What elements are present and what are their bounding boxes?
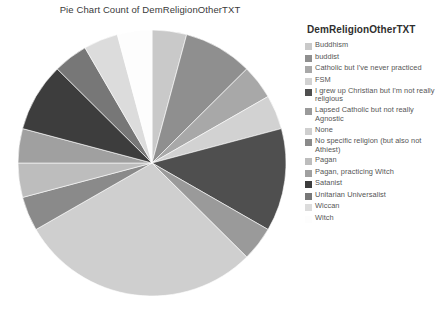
legend-item-label: FSM	[315, 76, 331, 84]
legend-item-label: buddist	[315, 53, 339, 61]
legend-color-swatch	[305, 139, 312, 146]
legend-color-swatch	[305, 78, 312, 85]
legend-color-swatch	[305, 89, 312, 96]
legend-color-swatch	[305, 216, 312, 223]
legend-item-label: Lapsed Catholic but not really Agnostic	[315, 106, 438, 123]
legend-color-swatch	[305, 128, 312, 135]
legend-item-label: Pagan, practicing Witch	[315, 168, 394, 176]
legend-item-label: Wiccan	[315, 202, 340, 210]
legend-item[interactable]: Wiccan	[305, 202, 438, 211]
legend-item[interactable]: Pagan, practicing Witch	[305, 168, 438, 177]
legend-item[interactable]: FSM	[305, 76, 438, 85]
legend-color-swatch	[305, 158, 312, 165]
legend-item[interactable]: Unitarian Universalist	[305, 191, 438, 200]
legend-item-label: Satanist	[315, 179, 342, 187]
legend-color-swatch	[305, 55, 312, 62]
legend-color-swatch	[305, 66, 312, 73]
legend-item-label: No specific religion (but also not Athie…	[315, 137, 438, 154]
legend-item-label: Witch	[315, 214, 334, 222]
legend-item-list: BuddhismbuddistCatholic but I've never p…	[305, 41, 438, 223]
pie-slice-group	[18, 30, 286, 296]
legend-item[interactable]: Lapsed Catholic but not really Agnostic	[305, 106, 438, 123]
legend-item[interactable]: I grew up Christian but I'm not really r…	[305, 87, 438, 104]
legend-color-swatch	[305, 108, 312, 115]
legend-item-label: Catholic but I've never practiced	[315, 64, 422, 72]
legend-item[interactable]: No specific religion (but also not Athie…	[305, 137, 438, 154]
legend-item-label: Buddhism	[315, 41, 348, 49]
legend-item[interactable]: Witch	[305, 214, 438, 223]
legend-item[interactable]: buddist	[305, 53, 438, 62]
pie-svg	[18, 30, 286, 296]
legend-color-swatch	[305, 170, 312, 177]
legend-title: DemReligionOtherTXT	[307, 24, 438, 35]
legend-color-swatch	[305, 43, 312, 50]
legend-item-label: Pagan	[315, 156, 337, 164]
legend-item-label: I grew up Christian but I'm not really r…	[315, 87, 438, 104]
legend-item[interactable]: Catholic but I've never practiced	[305, 64, 438, 73]
page-title: Pie Chart Count of DemReligionOtherTXT	[0, 4, 300, 15]
legend-item-label: None	[315, 126, 333, 134]
legend-color-swatch	[305, 181, 312, 188]
pie-chart	[18, 30, 286, 296]
legend-color-swatch	[305, 204, 312, 211]
legend-color-swatch	[305, 193, 312, 200]
legend-item[interactable]: None	[305, 126, 438, 135]
legend-item[interactable]: Pagan	[305, 156, 438, 165]
legend-item-label: Unitarian Universalist	[315, 191, 386, 199]
legend-item[interactable]: Buddhism	[305, 41, 438, 50]
chart-legend: DemReligionOtherTXT BuddhismbuddistCatho…	[305, 24, 438, 225]
legend-item[interactable]: Satanist	[305, 179, 438, 188]
